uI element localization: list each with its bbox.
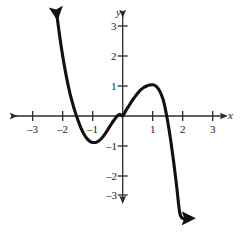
graph-figure: –3 –2 –1 1 2 3 3 2 1 –1 –2 –3 x y: [0, 0, 243, 234]
y-tick-label--1: –1: [106, 141, 117, 152]
y-tick-label-3: 3: [111, 21, 117, 32]
y-axis: [118, 14, 128, 200]
cubic-graph-plot: [0, 0, 243, 234]
x-tick-label-2: 2: [180, 124, 186, 135]
y-tick-label--2: –2: [106, 171, 117, 182]
x-tick-label--2: –2: [57, 124, 68, 135]
x-tick-label-3: 3: [210, 124, 216, 135]
y-tick-label-2: 2: [111, 51, 117, 62]
y-tick-label-1: 1: [111, 81, 117, 92]
x-tick-label-1: 1: [150, 124, 156, 135]
x-tick-label--3: –3: [27, 124, 38, 135]
y-axis-label: y: [116, 7, 121, 18]
y-tick-label--3: –3: [106, 190, 117, 201]
x-axis-label: x: [228, 110, 233, 121]
x-tick-label--1: –1: [87, 124, 98, 135]
